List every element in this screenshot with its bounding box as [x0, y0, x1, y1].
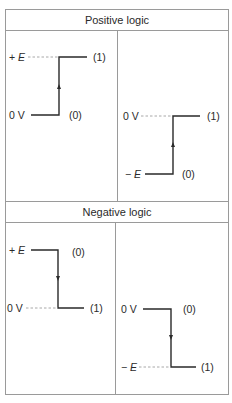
- arrow-up-icon: [171, 142, 175, 147]
- level-label-0v: 0 V: [7, 302, 23, 314]
- state-label-low: (0): [182, 168, 195, 180]
- level-label-0v: 0 V: [121, 303, 137, 315]
- state-label-low: (1): [201, 361, 214, 373]
- positive-right-panel: 0 V (1) − E (0): [123, 110, 220, 180]
- negative-left-panel: + E (0) 0 V (1): [7, 244, 103, 314]
- falling-edge-waveform: [143, 309, 196, 367]
- level-label-0v: 0 V: [9, 109, 25, 121]
- level-label-0v: 0 V: [123, 110, 139, 122]
- logic-levels-diagram: Positive logic Negative logic + E (1) 0 …: [0, 0, 232, 403]
- state-label-high: (1): [207, 110, 220, 122]
- level-label-plus-e: + E: [9, 51, 26, 63]
- arrow-down-icon: [56, 276, 60, 281]
- state-label-high: (0): [72, 246, 85, 258]
- arrow-up-icon: [57, 84, 61, 89]
- negative-right-panel: 0 V (0) − E (1): [121, 303, 214, 373]
- state-label-high: (0): [183, 303, 196, 315]
- arrow-down-icon: [169, 335, 173, 340]
- positive-left-panel: + E (1) 0 V (0): [9, 51, 106, 121]
- level-label-minus-e: − E: [125, 168, 142, 180]
- state-label-high: (1): [93, 51, 106, 63]
- positive-logic-header: Positive logic: [85, 14, 150, 26]
- level-label-minus-e: − E: [121, 361, 138, 373]
- negative-logic-header: Negative logic: [82, 206, 152, 218]
- level-label-plus-e: + E: [9, 244, 26, 256]
- state-label-low: (1): [90, 302, 103, 314]
- state-label-low: (0): [69, 109, 82, 121]
